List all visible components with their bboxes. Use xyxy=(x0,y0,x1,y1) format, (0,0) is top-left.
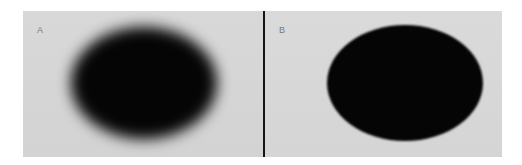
panel-b: B xyxy=(265,11,502,157)
comparison-figure: A B xyxy=(23,11,502,157)
sharp-ellipse xyxy=(327,25,483,141)
panel-b-label: B xyxy=(279,25,285,35)
panel-a-label: A xyxy=(37,25,43,35)
panel-a: A xyxy=(23,11,263,157)
blurred-ellipse xyxy=(71,27,217,139)
